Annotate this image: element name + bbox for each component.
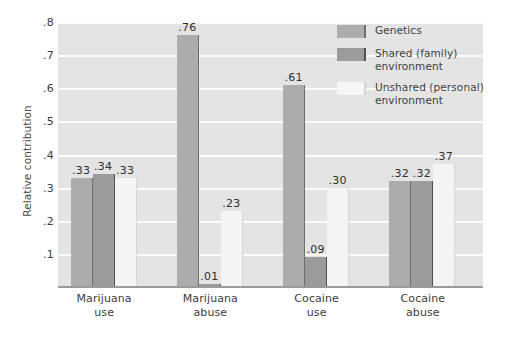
bar[interactable]: .23 <box>221 211 243 287</box>
bar-value-label: .32 <box>391 167 409 180</box>
y-tick-label: .6 <box>28 82 54 95</box>
bar[interactable]: .30 <box>327 188 349 287</box>
x-category-label: Cocaineuse <box>262 292 372 320</box>
y-tick-label: .2 <box>28 214 54 227</box>
x-category-label: Cocaineabuse <box>368 292 478 320</box>
legend-item[interactable]: Shared (family)environment <box>337 47 487 72</box>
y-tick-label: .3 <box>28 181 54 194</box>
bar-group: .33.34.33 <box>71 22 136 287</box>
x-category-label: Marijuanause <box>49 292 159 320</box>
bar[interactable]: .09 <box>305 257 327 287</box>
bar[interactable]: .32 <box>389 181 411 287</box>
legend-label: Genetics <box>375 24 422 37</box>
bar-value-label: .23 <box>222 197 240 210</box>
bar-value-label: .76 <box>178 21 196 34</box>
legend-swatch-icon <box>337 82 366 95</box>
bar-value-label: .37 <box>435 150 453 163</box>
x-category-label-line1: Cocaine <box>401 292 446 305</box>
x-category-label-line2: abuse <box>155 306 265 320</box>
bar-group: .76.01.23 <box>177 22 242 287</box>
legend-swatch-icon <box>337 48 366 61</box>
y-tick-label: .4 <box>28 148 54 161</box>
legend-label-line1: Unshared (personal) <box>375 81 484 93</box>
bar-value-label: .33 <box>116 164 134 177</box>
x-category-label-line1: Marijuana <box>183 292 238 305</box>
bar-chart-figure: Relative contribution .8.7.6.5.4.3.2.1 .… <box>0 0 509 350</box>
legend-item[interactable]: Unshared (personal)environment <box>337 81 487 106</box>
bar[interactable]: .33 <box>71 178 93 287</box>
x-axis-category-labels: MarijuanauseMarijuanaabuseCocaineuseCoca… <box>58 292 483 332</box>
bar[interactable]: .34 <box>93 174 115 287</box>
legend-label-line1: Genetics <box>375 24 422 36</box>
legend-swatch-icon <box>337 25 366 38</box>
bar[interactable]: .76 <box>177 35 199 287</box>
x-category-label-line2: use <box>49 306 159 320</box>
bar[interactable]: .37 <box>433 164 455 287</box>
bar-value-label: .30 <box>329 174 347 187</box>
legend-label-line2: environment <box>375 60 457 73</box>
x-axis-baseline <box>58 286 483 288</box>
x-category-label-line2: use <box>262 306 372 320</box>
bar-value-label: .01 <box>200 270 218 283</box>
x-category-label-line1: Cocaine <box>294 292 339 305</box>
y-axis-tick-labels: .8.7.6.5.4.3.2.1 <box>14 0 54 350</box>
bar-value-label: .61 <box>285 71 303 84</box>
y-tick-label: .1 <box>28 247 54 260</box>
bar-value-label: .32 <box>413 167 431 180</box>
legend-label: Unshared (personal)environment <box>375 81 484 106</box>
legend-label-line1: Shared (family) <box>375 47 457 59</box>
legend-label: Shared (family)environment <box>375 47 457 72</box>
bar[interactable]: .33 <box>115 178 137 287</box>
x-category-label-line1: Marijuana <box>77 292 132 305</box>
legend-item[interactable]: Genetics <box>337 24 487 38</box>
legend-label-line2: environment <box>375 94 484 107</box>
bar[interactable]: .32 <box>411 181 433 287</box>
y-tick-label: .5 <box>28 115 54 128</box>
bar-value-label: .09 <box>307 243 325 256</box>
bar-value-label: .34 <box>94 160 112 173</box>
y-tick-label: .7 <box>28 49 54 62</box>
y-tick-label: .8 <box>28 16 54 29</box>
x-category-label-line2: abuse <box>368 306 478 320</box>
chart-legend: GeneticsShared (family)environmentUnshar… <box>337 24 487 115</box>
x-category-label: Marijuanaabuse <box>155 292 265 320</box>
bar[interactable]: .61 <box>283 85 305 287</box>
bar-value-label: .33 <box>72 164 90 177</box>
